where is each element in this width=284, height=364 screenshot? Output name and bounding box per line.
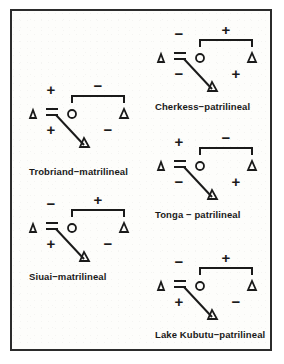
node-ego-male xyxy=(208,82,217,91)
node-mother-female xyxy=(196,54,204,62)
node-mother-female xyxy=(196,282,204,290)
sign-bottom-right: − xyxy=(104,121,113,138)
node-father-male xyxy=(158,162,164,170)
sign-top-right: + xyxy=(222,255,231,266)
node-ego-male xyxy=(80,138,89,147)
sign-bottom-right: + xyxy=(232,173,241,190)
node-ego-male xyxy=(208,190,217,199)
caption-lake-kubutu: Lake Kubutu−patrilineal xyxy=(155,329,265,340)
kinship-diagram-lake-kubutu: − + + − xyxy=(154,255,274,323)
sign-top-left: − xyxy=(175,27,184,42)
sign-bottom-left: + xyxy=(47,235,56,252)
figure-frame: + − + − Trobriand−matrilineal − + − + Ch… xyxy=(10,9,272,351)
descent-link xyxy=(184,167,212,197)
node-mother-female xyxy=(196,162,204,170)
sign-top-left: + xyxy=(175,135,184,150)
caption-trobriand: Trobriand−matrilineal xyxy=(29,166,128,177)
descent-link xyxy=(184,59,212,89)
node-mothers-brother-male xyxy=(248,53,256,62)
kinship-diagram-cherkess: − + − + xyxy=(154,27,274,95)
sign-top-right: − xyxy=(222,135,231,146)
sign-top-left: − xyxy=(47,197,56,212)
kinship-graph-siuai: − + + − xyxy=(26,197,146,265)
sign-top-left: − xyxy=(175,255,184,270)
node-ego-male xyxy=(80,252,89,261)
node-mother-female xyxy=(68,110,76,118)
sign-bottom-left: − xyxy=(175,173,184,190)
node-father-male xyxy=(158,282,164,290)
sign-top-right: − xyxy=(94,83,103,94)
sign-top-right: + xyxy=(94,197,103,208)
sign-bottom-right: + xyxy=(232,65,241,82)
node-ego-male xyxy=(208,310,217,319)
caption-tonga: Tonga − patrilineal xyxy=(155,209,240,220)
sibling-link xyxy=(200,268,252,275)
kinship-graph-tonga: + − − + xyxy=(154,135,274,203)
marriage-link xyxy=(174,161,186,167)
node-mothers-brother-male xyxy=(248,281,256,290)
node-father-male xyxy=(30,110,36,118)
sign-bottom-left: + xyxy=(47,121,56,138)
sibling-link xyxy=(72,210,124,217)
sibling-link xyxy=(200,148,252,155)
kinship-diagram-trobriand: + − + − xyxy=(26,83,146,151)
sibling-link xyxy=(200,40,252,47)
node-mothers-brother-male xyxy=(120,223,128,232)
node-mothers-brother-male xyxy=(120,109,128,118)
descent-link xyxy=(56,229,84,259)
sign-bottom-left: − xyxy=(175,65,184,82)
marriage-link xyxy=(46,223,58,229)
node-father-male xyxy=(30,224,36,232)
node-mother-female xyxy=(68,224,76,232)
kinship-graph-trobriand: + − + − xyxy=(26,83,146,151)
caption-siuai: Siuai−matrilineal xyxy=(29,271,106,282)
kinship-graph-cherkess: − + − + xyxy=(154,27,274,95)
sign-top-left: + xyxy=(47,83,56,98)
kinship-graph-lake-kubutu: − + + − xyxy=(154,255,274,323)
sign-bottom-right: − xyxy=(104,235,113,252)
sign-top-right: + xyxy=(222,27,231,38)
marriage-link xyxy=(174,281,186,287)
descent-link xyxy=(56,115,84,145)
sign-bottom-right: − xyxy=(232,293,241,310)
node-mothers-brother-male xyxy=(248,161,256,170)
marriage-link xyxy=(174,53,186,59)
marriage-link xyxy=(46,109,58,115)
descent-link xyxy=(184,287,212,317)
caption-cherkess: Cherkess−patrilineal xyxy=(155,101,250,112)
sibling-link xyxy=(72,96,124,103)
sign-bottom-left: + xyxy=(175,293,184,310)
kinship-diagram-tonga: + − − + xyxy=(154,135,274,203)
kinship-diagram-siuai: − + + − xyxy=(26,197,146,265)
node-father-male xyxy=(158,54,164,62)
